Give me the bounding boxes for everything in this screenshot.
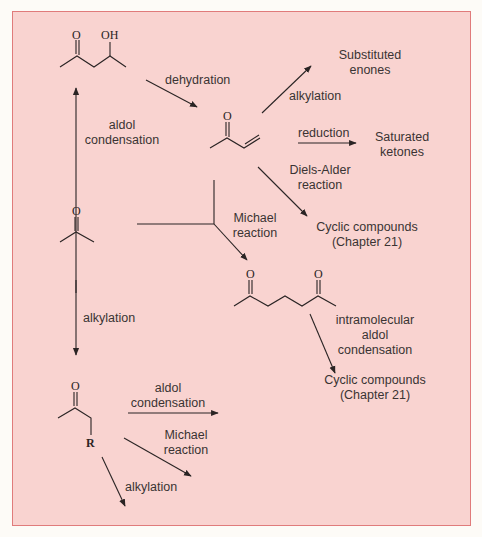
alkyl-ketone-o: O (71, 379, 80, 393)
label-cyclic-compounds-2: Cyclic compounds(Chapter 21) (310, 373, 440, 403)
label-substituted-enones: Substitutedenones (312, 48, 428, 78)
arrow-alkylation-bottom (102, 457, 125, 506)
alkyl-ketone-molecule (58, 392, 91, 435)
diketone-o2: O (314, 267, 323, 281)
alkyl-ketone-r: R (86, 436, 95, 450)
hydroxyketone-o: O (72, 28, 81, 42)
label-diels-alder: Diels-Alderreaction (282, 163, 358, 193)
hydroxyketone-oh: OH (101, 28, 119, 42)
label-cyclic-compounds-1: Cyclic compounds(Chapter 21) (302, 220, 432, 250)
reaction-scheme: O OH O O O O O R (0, 0, 482, 537)
label-saturated-ketones: Saturatedketones (362, 130, 442, 160)
enone-o: O (223, 109, 232, 123)
label-aldol-condensation-2: aldolcondensation (126, 381, 210, 411)
label-aldol-condensation-1: aldolcondensation (81, 118, 163, 148)
label-alkylation-enone: alkylation (289, 89, 341, 104)
hydroxyketone-molecule (60, 40, 126, 67)
acetone-o: O (72, 204, 81, 218)
diketone-o1: O (246, 267, 255, 281)
label-alkylation-bottom: alkylation (125, 480, 177, 495)
label-alkylation-acetone: alkylation (83, 311, 135, 326)
label-michael-2: Michaelreaction (158, 428, 214, 458)
diketone-molecule (234, 280, 336, 306)
acetone-molecule (60, 217, 94, 242)
enone-molecule (210, 122, 260, 148)
label-intramolecular-aldol: intramolecularaldolcondensation (328, 313, 422, 358)
label-michael-1: Michaelreaction (226, 211, 284, 241)
label-dehydration: dehydration (165, 73, 230, 88)
label-reduction: reduction (298, 126, 349, 141)
